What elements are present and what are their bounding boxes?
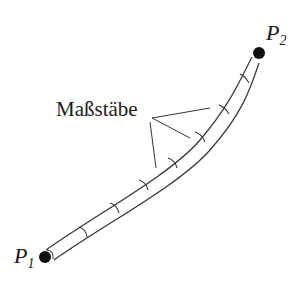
diagram-svg [0,0,303,287]
diagram-canvas: Maßstäbe P1 P2 [0,0,303,287]
p1-letter: P [14,243,27,268]
rods-label: Maßstäbe [56,99,138,120]
p2-letter: P [266,20,279,45]
p1-subscript: 1 [27,256,34,271]
point-p2-label: P2 [266,22,286,44]
p2-dot [253,47,265,59]
p2-subscript: 2 [279,33,286,48]
p1-dot [39,251,51,263]
rod-chain-upper-edge [46,57,252,250]
point-p1-label: P1 [14,245,34,267]
